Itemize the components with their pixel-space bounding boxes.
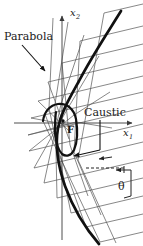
x2-axis-label-subscript: 2 [75, 13, 80, 21]
focus-point [61, 119, 64, 122]
reflected-ray [45, 114, 86, 227]
reflected-ray [44, 104, 61, 183]
incident-ray [104, 4, 143, 13]
incident-ray [100, 232, 143, 242]
parabola-leader-arrow [22, 45, 45, 71]
figure-canvas: Parabola Caustic F θ x 1 x 2 [0, 0, 143, 246]
focus-label: F [67, 124, 74, 135]
x1-axis-label: x 1 [123, 127, 133, 141]
caustic-label: Caustic [84, 106, 126, 119]
incident-ray [71, 196, 143, 213]
parabola-label: Parabola [4, 30, 53, 43]
x1-axis-label-subscript: 1 [129, 133, 133, 141]
x2-axis-label: x 2 [70, 7, 80, 21]
theta-bracket-foot [124, 196, 131, 198]
incident-ray [86, 214, 143, 227]
theta-label: θ [118, 180, 125, 193]
reflected-ray-ext [78, 160, 116, 243]
incident-direction-arrow [99, 157, 112, 159]
parabola-caustic-figure: Parabola Caustic F θ x 1 x 2 [0, 0, 143, 246]
reflected-ray-ext [68, 56, 99, 108]
reflected-ray-ext [55, 22, 68, 104]
incident-ray [62, 44, 143, 63]
